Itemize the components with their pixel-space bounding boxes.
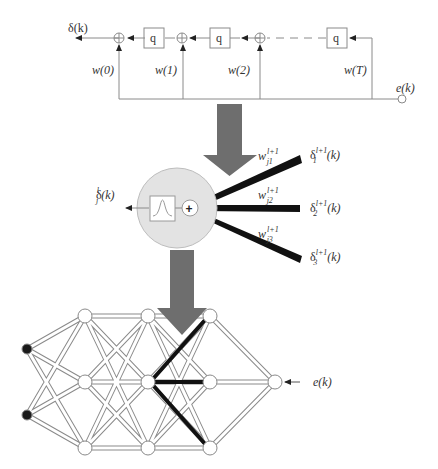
weight-label-T: w(T) (344, 63, 367, 77)
fir-input-label: e(k) (396, 81, 415, 95)
plus-icon: + (186, 202, 193, 216)
delay-label-1: q (150, 31, 156, 45)
transition-arrow-2 (157, 250, 207, 335)
delta-label-2: δl+12(k) (310, 199, 341, 218)
weight-label-2: w(2) (228, 63, 250, 77)
diagram-canvas: δ(k) q q q w(0) w(1) w(2) w(T) e(k) + δl… (0, 0, 438, 469)
hidden3-node-3 (203, 441, 217, 455)
input-node-1 (22, 344, 32, 354)
delta-label-1: δl+11(k) (310, 146, 340, 165)
input-terminal (398, 95, 406, 103)
network-error-label: e(k) (313, 375, 332, 389)
hidden1-node-1 (78, 309, 92, 323)
transition-arrow-1 (203, 104, 257, 176)
hidden2-node-1 (141, 309, 155, 323)
hidden1-node-2 (78, 375, 92, 389)
hidden3-node-1 (203, 309, 217, 323)
input-node-2 (22, 410, 32, 420)
neuron-output-label: δlj(k) (95, 186, 115, 205)
weight-label-j2: wl+1j2 (258, 186, 279, 205)
output-node (268, 375, 282, 389)
hidden3-node-2 (203, 375, 217, 389)
weight-label-1: w(1) (155, 63, 177, 77)
hidden2-node-2 (141, 375, 155, 389)
sum-junction-0 (114, 33, 124, 43)
hidden2-node-3 (141, 441, 155, 455)
neuron-detail: + (126, 155, 302, 263)
hidden1-node-3 (78, 441, 92, 455)
fir-output-label: δ(k) (68, 21, 88, 35)
weight-label-0: w(0) (92, 63, 114, 77)
delay-label-2: q (216, 31, 222, 45)
delta-label-3: δl+13(k) (310, 248, 341, 267)
delay-label-3: q (333, 31, 339, 45)
sum-junction-1 (177, 33, 187, 43)
sum-junction-2 (255, 33, 265, 43)
weight-label-j1: wl+1j1 (258, 147, 279, 166)
